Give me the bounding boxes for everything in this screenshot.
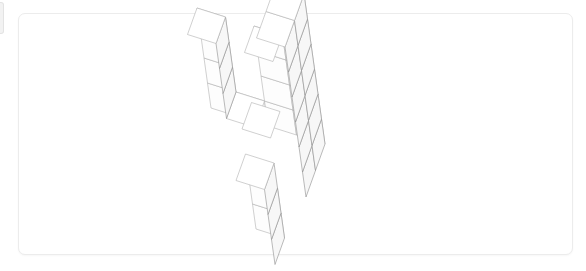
figure-stage: [0, 0, 586, 271]
figure-card: [18, 13, 573, 255]
clipped-card-edge-icon: [0, 2, 4, 34]
